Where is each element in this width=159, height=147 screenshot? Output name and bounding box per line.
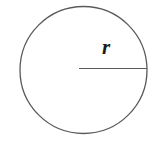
circle-outline <box>20 7 147 134</box>
radius-label: r <box>102 37 110 58</box>
figure-canvas <box>0 0 159 147</box>
circle-radius-figure: r <box>0 0 159 147</box>
